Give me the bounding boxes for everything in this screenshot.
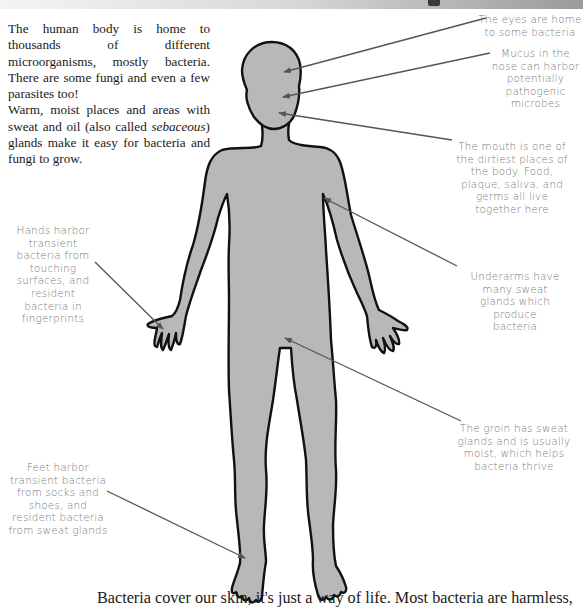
hands-arrow-icon xyxy=(95,262,163,329)
eyes-arrow-icon xyxy=(284,18,486,72)
footer-text: Bacteria cover our skin, it's just a way… xyxy=(97,589,583,608)
feet-arrow-icon xyxy=(107,491,245,558)
nose-arrow-icon xyxy=(283,53,490,97)
callout-hands: Hands harbor transient bacteria from tou… xyxy=(12,224,94,325)
callout-groin: The groin has sweat glands and is usuall… xyxy=(455,422,573,472)
callout-eyes: The eyes are home to some bacteria xyxy=(478,13,582,38)
human-body-silhouette-icon xyxy=(148,42,408,602)
mouth-arrow-icon xyxy=(279,113,452,140)
callout-mouth: The mouth is one of the dirtiest places … xyxy=(452,140,572,216)
callout-nose: Mucus in the nose can harbor potentially… xyxy=(488,47,583,110)
callout-feet: Feet harbor transient bacteria from sock… xyxy=(8,461,108,537)
callout-underarms: Underarms have many sweat glands which p… xyxy=(470,270,560,333)
